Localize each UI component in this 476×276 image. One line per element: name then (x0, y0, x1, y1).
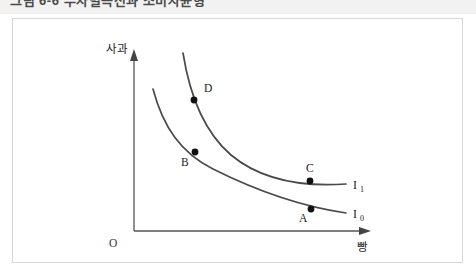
curve-label-i1-subscript: 1 (360, 185, 364, 194)
curve-i0 (153, 89, 346, 213)
point-c-dot (307, 178, 314, 185)
y-axis-arrow-icon (130, 49, 138, 61)
y-axis-label: 사과 (106, 43, 128, 55)
point-label-a: A (299, 212, 308, 224)
point-label-d: D (204, 82, 212, 94)
point-a-dot (308, 206, 315, 213)
figure-panel: D B C A I 1 I 0 사과 빵 O (12, 18, 463, 263)
caption-strip: 그림 6-6 무차별곡선과 소비자균형 (0, 0, 476, 14)
origin-label: O (109, 237, 117, 249)
curve-label-i0: I (353, 207, 357, 221)
x-axis-label: 빵 (357, 241, 368, 253)
x-axis-arrow-icon (359, 227, 371, 235)
point-b-dot (192, 149, 199, 156)
curve-label-i1: I (353, 178, 357, 192)
point-d-dot (191, 97, 198, 104)
point-label-c: C (306, 162, 314, 174)
point-label-b: B (181, 156, 189, 168)
curve-label-i0-subscript: 0 (360, 214, 364, 223)
figure-caption: 그림 6-6 무차별곡선과 소비자균형 (10, 0, 205, 9)
curve-i1 (183, 53, 346, 185)
indifference-curve-chart: D B C A I 1 I 0 사과 빵 O (13, 19, 462, 262)
